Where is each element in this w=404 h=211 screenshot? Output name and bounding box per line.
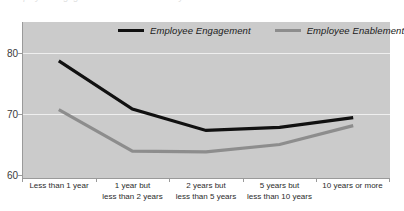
chart-title-cropped: Employee Engagement and Enablement by Te… [10,0,390,2]
x-tick-label-10-years-or-more: 10 years or more [316,181,389,192]
legend-swatch-icon [118,29,144,32]
x-tick-label-5-years-but-less-than-10-years: 5 years but less than 10 years [243,181,316,202]
x-tick-label-1-year-but-less-than-2-years: 1 year but less than 2 years [96,181,169,202]
x-tick-label-line2: less than 2 years [96,192,169,203]
y-axis-line [22,22,23,178]
legend-item-label: Employee Enablement [307,25,404,36]
legend-swatch-icon [275,29,301,32]
x-tick-label-line2: less than 5 years [169,192,243,203]
legend-item-employee-engagement: Employee Engagement [118,25,251,36]
x-tick-label-2-years-but-less-than-5-years: 2 years but less than 5 years [169,181,243,202]
y-tick-label-60: 60 [0,171,18,181]
x-tick-label-line1: Less than 1 year [22,181,96,192]
x-axis-line [22,178,390,179]
y-tick-label-80: 80 [0,49,18,59]
x-tick-label-line1: 10 years or more [316,181,389,192]
series-lines [22,22,390,178]
x-tick-label-less-than-1-year: Less than 1 year [22,181,96,192]
y-tick-label-70: 70 [0,110,18,120]
legend-item-employee-enablement: Employee Enablement [275,25,404,36]
x-tick-mark-5 [389,178,390,182]
series-line-employee-engagement [59,61,353,131]
x-tick-label-line1: 5 years but [243,181,316,192]
legend-item-label: Employee Engagement [150,25,251,36]
x-tick-label-line2: less than 10 years [243,192,316,203]
x-tick-label-line1: 2 years but [169,181,243,192]
x-tick-label-line1: 1 year but [96,181,169,192]
chart-legend: Employee Engagement Employee Enablement [118,25,404,36]
plot-area [22,22,390,178]
